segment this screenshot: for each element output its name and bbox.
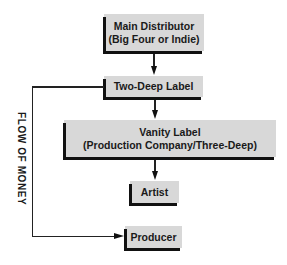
- node-main-distributor: Main Distributor (Big Four or Indie): [104, 14, 204, 51]
- node-artist: Artist: [130, 181, 179, 203]
- node-title: Artist: [141, 186, 168, 199]
- arrow-right-icon: [114, 233, 124, 239]
- box-shadow-left: [103, 17, 106, 54]
- flow-of-money-label: FLOW OF MONEY: [13, 112, 27, 212]
- arrow-down-icon: [152, 110, 158, 119]
- money-flow-bottom-line: [32, 236, 116, 238]
- money-flow-top-line: [32, 86, 104, 88]
- node-two-deep-label: Two-Deep Label: [104, 76, 203, 97]
- arrow-down-icon: [151, 66, 157, 75]
- node-title: Producer: [130, 231, 176, 244]
- node-vanity-label: Vanity Label (Production Company/Three-D…: [64, 120, 276, 157]
- box-shadow-left: [63, 123, 66, 160]
- box-shadow-bottom: [124, 248, 180, 251]
- box-shadow-bottom: [63, 157, 274, 160]
- node-producer: Producer: [125, 226, 182, 248]
- node-subtitle: (Production Company/Three-Deep): [83, 139, 257, 152]
- node-subtitle: (Big Four or Indie): [109, 33, 200, 46]
- node-title: Main Distributor: [114, 20, 195, 33]
- box-shadow-bottom: [103, 97, 201, 100]
- node-title: Vanity Label: [139, 126, 200, 139]
- arrow-down-icon: [152, 171, 158, 180]
- node-title: Two-Deep Label: [114, 80, 194, 93]
- box-shadow-bottom: [129, 203, 177, 206]
- money-flow-vertical-line: [32, 86, 34, 237]
